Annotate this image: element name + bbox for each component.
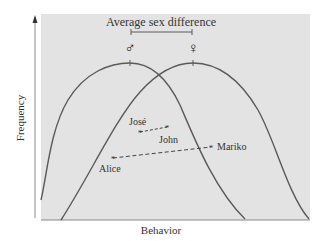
x-axis-label: Behavior [141,224,182,236]
male-symbol-icon: ♂ [124,40,135,56]
plot-area [41,14,310,220]
female-symbol-icon: ♀ [187,40,198,56]
y-axis-arrow-icon [33,15,38,23]
label-jose: José [129,116,147,127]
annotation-average-sex-difference: Average sex difference [106,15,216,29]
y-axis-label: Frequency [14,94,26,141]
label-john: John [159,134,178,145]
label-alice: Alice [99,163,121,174]
jose-marker-icon: * [138,128,143,138]
label-mariko: Mariko [217,141,246,152]
mariko-marker-icon: * [209,143,214,153]
sex-difference-diagram: Average sex difference ♂ ♀ Frequency Beh… [0,0,323,241]
john-marker-icon: * [165,123,170,133]
